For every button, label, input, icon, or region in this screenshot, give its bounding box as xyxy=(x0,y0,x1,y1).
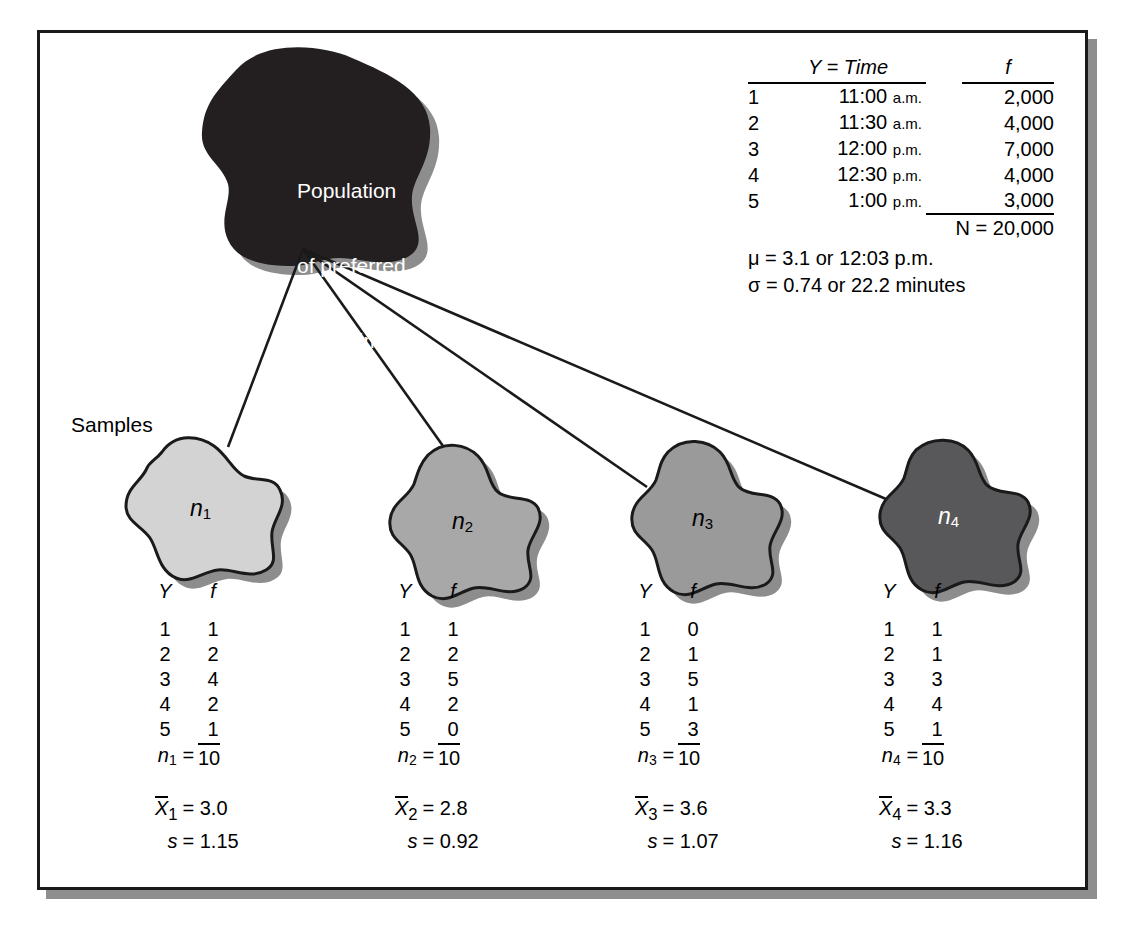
sample-2-row-2-y: 2 xyxy=(398,642,412,667)
sample-2-total: n2 = 10 xyxy=(324,743,534,773)
sample-1-summary: X1 = 3.0 s = 1.15 xyxy=(84,795,294,855)
sample-4-row-4-f: 4 xyxy=(930,692,944,717)
sample-4-mean-equals: = xyxy=(907,797,924,819)
table-row: 3 5 xyxy=(398,667,460,692)
sample-1-n-subscript: 1 xyxy=(169,752,177,768)
sample-blob-2-n-label: n2 xyxy=(452,508,473,535)
population-row-1-gap xyxy=(926,83,962,110)
population-table-total-row: N = 20,000 xyxy=(748,214,1054,241)
sample-1-row-1-f: 1 xyxy=(206,617,220,642)
sample-1-row-2-y: 2 xyxy=(158,642,172,667)
sample-3-row-2-y: 2 xyxy=(638,642,652,667)
sample-4-n-subscript: 4 xyxy=(893,752,901,768)
population-row-3-frequency: 7,000 xyxy=(962,136,1054,162)
sample-4-column-headers: Y f xyxy=(808,580,1018,603)
population-label-line-2: of preferred xyxy=(297,253,406,278)
sample-1-column-headers: Y f xyxy=(84,580,294,603)
sample-1-mean-symbol: X xyxy=(155,796,168,818)
sample-3-stats-block: Y f 1 0 2 1 3 5 4 1 5 3 n3 = 10 X3 = 3.6 xyxy=(564,580,774,855)
population-total-spacer-2 xyxy=(774,214,926,241)
sample-2-header-f: f xyxy=(446,580,460,603)
sample-1-total: n1 = 10 xyxy=(84,743,294,773)
sample-3-n-value: 10 xyxy=(678,743,700,771)
sample-3-total: n3 = 10 xyxy=(564,743,774,773)
sample-4-row-2-f: 1 xyxy=(930,642,944,667)
table-row: 2 1 xyxy=(882,642,944,667)
population-row-5-index: 5 xyxy=(748,188,774,214)
sample-blob-3-n-letter: n xyxy=(692,505,705,531)
sample-3-s-equals: = xyxy=(663,830,680,852)
sample-3-row-1-y: 1 xyxy=(638,617,652,642)
population-parameters: μ = 3.1 or 12:03 p.m. σ = 0.74 or 22.2 m… xyxy=(748,245,965,299)
table-row: 1 0 xyxy=(638,617,700,642)
sample-1-mean-subscript: 1 xyxy=(168,805,177,824)
sample-blob-4-n-label: n4 xyxy=(938,503,959,530)
sample-2-row-4-y: 4 xyxy=(398,692,412,717)
sample-2-row-3-f: 5 xyxy=(446,667,460,692)
sample-4-s-number: 1.16 xyxy=(924,830,963,852)
sample-2-rows: 1 1 2 2 3 5 4 2 5 0 xyxy=(324,617,534,742)
sample-3-s-number: 1.07 xyxy=(680,830,719,852)
population-row-4-index: 4 xyxy=(748,162,774,188)
population-row-3-meridiem: p.m. xyxy=(893,141,922,158)
sample-3-row-4-y: 4 xyxy=(638,692,652,717)
sample-4-row-3-f: 3 xyxy=(930,667,944,692)
sample-4-s-label: s xyxy=(858,828,907,855)
population-row-2-meridiem: a.m. xyxy=(893,115,922,132)
table-row: 4 2 xyxy=(158,692,220,717)
population-table-header-f: f xyxy=(962,55,1054,83)
sample-blob-3-n-label: n3 xyxy=(692,505,713,532)
sample-4-stats-block: Y f 1 1 2 1 3 3 4 4 5 1 n4 = 10 X4 = 3.3 xyxy=(808,580,1018,855)
sample-3-n-subscript: 3 xyxy=(649,752,657,768)
population-label-line-1: Population xyxy=(297,178,406,203)
population-row-1-frequency: 2,000 xyxy=(962,83,1054,110)
population-row-4-time: 12:30 p.m. xyxy=(774,162,926,188)
population-row-2-gap xyxy=(926,110,962,136)
sample-1-s-number: 1.15 xyxy=(200,830,239,852)
sample-3-mean-label: X3 xyxy=(614,795,663,828)
population-total-value: N = 20,000 xyxy=(926,214,1054,241)
sample-2-mean-label: X2 xyxy=(374,795,423,828)
sample-3-column-headers: Y f xyxy=(564,580,774,603)
table-row: 1 1 xyxy=(158,617,220,642)
population-table-header-spacer xyxy=(748,55,774,83)
sample-1-row-4-f: 2 xyxy=(206,692,220,717)
population-row-4-gap xyxy=(926,162,962,188)
table-row: 1 1 xyxy=(882,617,944,642)
sample-1-n-label: n1 = xyxy=(158,743,198,773)
sample-1-n-equals: = xyxy=(177,744,194,766)
sample-4-row-5-f: 1 xyxy=(930,717,944,742)
sample-3-s-label: s xyxy=(614,828,663,855)
sample-1-n-value: 10 xyxy=(198,743,220,771)
sample-blob-2-n-subscript: 2 xyxy=(465,518,473,535)
sample-3-row-3-y: 3 xyxy=(638,667,652,692)
population-row-4-meridiem: p.m. xyxy=(893,167,922,184)
sample-2-mean-number: 2.8 xyxy=(440,797,468,819)
sample-4-row-3-y: 3 xyxy=(882,667,896,692)
sample-2-row-1-y: 1 xyxy=(398,617,412,642)
samples-caption: Samples xyxy=(71,413,153,437)
sample-4-s-line: s = 1.16 xyxy=(808,828,1018,855)
sample-2-row-4-f: 2 xyxy=(446,692,460,717)
sample-1-mean-label: X1 xyxy=(134,795,183,828)
sample-2-n-subscript: 2 xyxy=(409,752,417,768)
table-row: 4 1 xyxy=(638,692,700,717)
sample-3-s-value: = 1.07 xyxy=(663,828,725,855)
population-row-1-index: 1 xyxy=(748,83,774,110)
sample-4-row-1-f: 1 xyxy=(930,617,944,642)
sample-2-row-5-f: 0 xyxy=(446,717,460,742)
sample-1-rows: 1 1 2 2 3 4 4 2 5 1 xyxy=(84,617,294,742)
sample-1-s-label: s xyxy=(134,828,183,855)
sample-3-summary: X3 = 3.6 s = 1.07 xyxy=(564,795,774,855)
table-row: 3 12:00 p.m. 7,000 xyxy=(748,136,1054,162)
sample-4-mean-symbol: X xyxy=(879,796,892,818)
population-total-spacer-1 xyxy=(748,214,774,241)
sample-3-mean-symbol: X xyxy=(635,796,648,818)
sample-2-s-equals: = xyxy=(423,830,440,852)
population-row-2-time-value: 11:30 xyxy=(839,111,888,133)
population-frequency-table: Y = Time f 1 11:00 a.m. 2,000 2 11:30 a.… xyxy=(748,55,1054,241)
sample-2-mean-symbol: X xyxy=(395,796,408,818)
sample-3-row-4-f: 1 xyxy=(686,692,700,717)
sample-4-row-4-y: 4 xyxy=(882,692,896,717)
sample-3-mean-line: X3 = 3.6 xyxy=(564,795,774,828)
